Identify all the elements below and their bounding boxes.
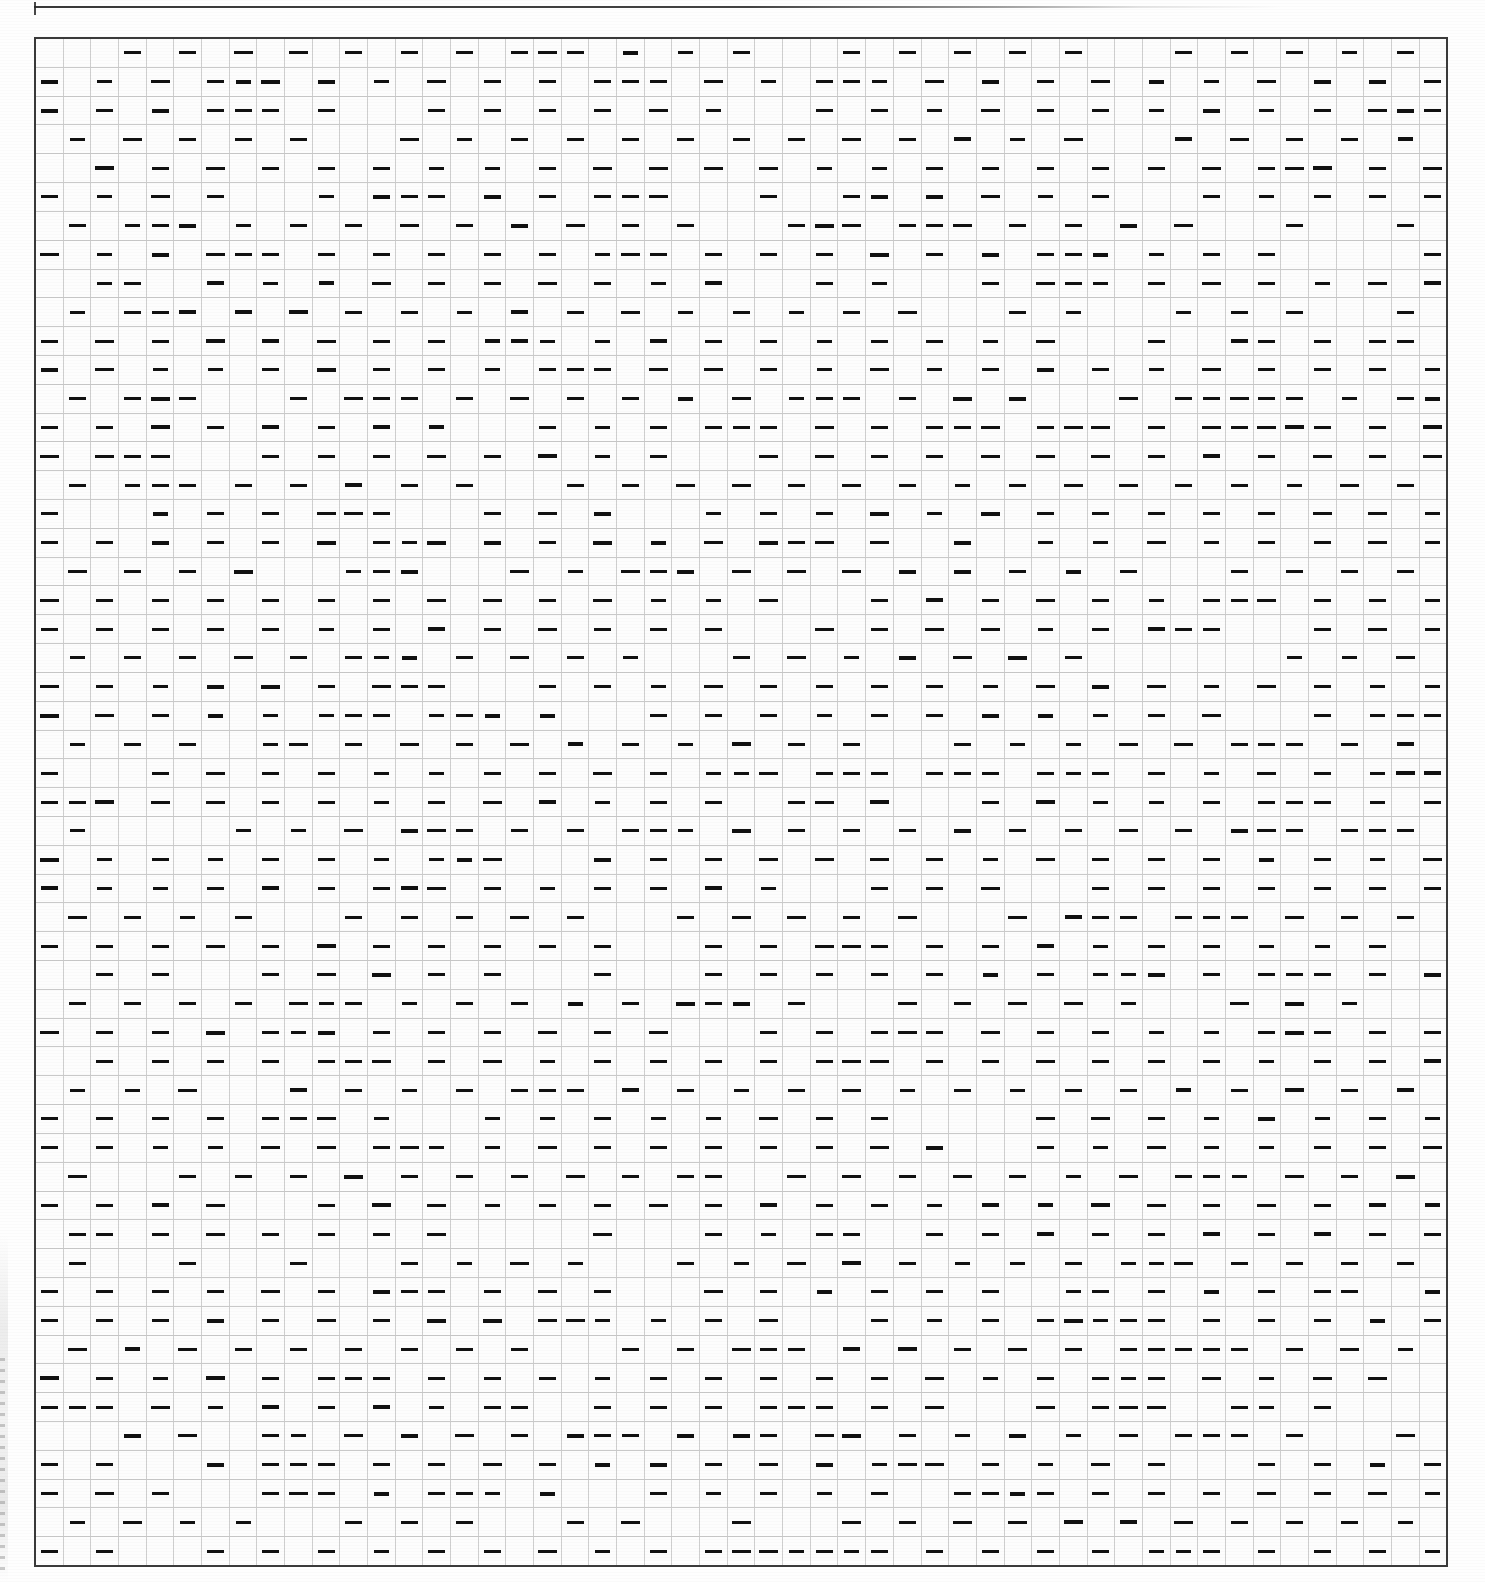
table-cell xyxy=(1143,1422,1171,1450)
cell-dash-mark xyxy=(206,1031,225,1035)
table-cell xyxy=(728,327,756,355)
cell-dash-mark xyxy=(594,109,611,112)
table-cell xyxy=(589,903,617,931)
table-cell xyxy=(1364,1393,1392,1421)
table-cell xyxy=(1254,1105,1282,1133)
table-cell xyxy=(1226,817,1254,845)
table-cell xyxy=(257,788,285,816)
table-cell xyxy=(313,1336,341,1364)
table-cell xyxy=(1143,212,1171,240)
table-cell xyxy=(174,1537,202,1565)
table-cell xyxy=(1198,586,1226,614)
table-cell xyxy=(257,932,285,960)
table-cell xyxy=(1060,1451,1088,1479)
cell-dash-mark xyxy=(732,829,751,833)
table-cell xyxy=(755,1364,783,1392)
table-cell xyxy=(1337,1451,1365,1479)
table-cell xyxy=(1032,1076,1060,1104)
cell-dash-mark xyxy=(484,973,501,976)
table-cell xyxy=(1254,68,1282,96)
cell-dash-mark xyxy=(151,1406,170,1409)
cell-dash-mark xyxy=(1286,1434,1303,1437)
table-cell xyxy=(922,1480,950,1508)
table-cell xyxy=(645,586,673,614)
cell-dash-mark xyxy=(955,1434,970,1437)
table-cell xyxy=(728,212,756,240)
cell-dash-mark xyxy=(70,1089,85,1092)
cell-dash-mark xyxy=(1092,195,1109,198)
table-cell xyxy=(1392,673,1420,701)
table-cell xyxy=(91,125,119,153)
table-cell xyxy=(811,1278,839,1306)
table-cell xyxy=(894,1192,922,1220)
table-cell xyxy=(1005,1480,1033,1508)
cell-dash-mark xyxy=(539,599,556,602)
table-cell xyxy=(1392,1480,1420,1508)
table-cell xyxy=(230,615,258,643)
table-cell xyxy=(91,903,119,931)
table-cell xyxy=(423,1422,451,1450)
cell-dash-mark xyxy=(705,1175,722,1178)
table-cell xyxy=(1060,1019,1088,1047)
cell-dash-mark xyxy=(206,1376,225,1380)
table-cell xyxy=(1226,270,1254,298)
cell-dash-mark xyxy=(1424,714,1441,717)
table-cell xyxy=(1171,471,1199,499)
cell-dash-mark xyxy=(69,1233,86,1236)
table-cell xyxy=(257,1220,285,1248)
table-cell xyxy=(589,788,617,816)
cell-dash-mark xyxy=(595,1319,610,1322)
cell-dash-mark xyxy=(400,138,419,141)
table-cell xyxy=(700,385,728,413)
cell-dash-mark xyxy=(622,80,639,83)
cell-dash-mark xyxy=(511,51,528,54)
table-cell xyxy=(1309,846,1337,874)
cell-dash-mark xyxy=(178,1089,197,1092)
table-cell xyxy=(1226,1019,1254,1047)
cell-dash-mark xyxy=(1092,1060,1109,1063)
table-cell xyxy=(894,644,922,672)
table-cell xyxy=(589,1278,617,1306)
cell-dash-mark xyxy=(677,1348,694,1351)
cell-dash-mark xyxy=(207,1319,224,1323)
table-cell xyxy=(506,1508,534,1536)
table-cell xyxy=(119,298,147,326)
table-cell xyxy=(1032,615,1060,643)
cell-dash-mark xyxy=(1257,829,1276,832)
cell-dash-mark xyxy=(593,599,612,602)
table-cell xyxy=(64,1393,92,1421)
table-cell xyxy=(423,270,451,298)
cell-dash-mark xyxy=(152,858,169,861)
table-cell xyxy=(368,1480,396,1508)
cell-dash-mark xyxy=(1119,484,1138,487)
cell-dash-mark xyxy=(1066,772,1081,775)
cell-dash-mark xyxy=(1093,253,1108,257)
table-cell xyxy=(285,97,313,125)
cell-dash-mark xyxy=(317,973,336,976)
table-cell xyxy=(1226,298,1254,326)
table-cell xyxy=(285,1076,313,1104)
table-cell xyxy=(700,558,728,586)
cell-dash-mark xyxy=(760,1146,777,1149)
table-cell xyxy=(36,125,64,153)
cell-dash-mark xyxy=(1257,772,1276,775)
cell-dash-mark xyxy=(1425,685,1440,688)
cell-dash-mark xyxy=(567,51,584,54)
table-cell xyxy=(1254,97,1282,125)
table-cell xyxy=(728,241,756,269)
table-cell xyxy=(1088,1364,1116,1392)
cell-dash-mark xyxy=(262,1233,279,1236)
table-cell xyxy=(783,385,811,413)
table-cell xyxy=(257,817,285,845)
table-cell xyxy=(230,932,258,960)
cell-dash-mark xyxy=(317,1146,336,1149)
table-cell xyxy=(36,356,64,384)
table-cell xyxy=(147,961,175,989)
table-cell xyxy=(91,241,119,269)
table-cell xyxy=(672,1307,700,1335)
table-cell xyxy=(1171,1105,1199,1133)
cell-dash-mark xyxy=(1314,1492,1331,1495)
cell-dash-mark xyxy=(816,1146,833,1149)
table-cell xyxy=(396,1134,424,1162)
table-cell xyxy=(672,39,700,67)
